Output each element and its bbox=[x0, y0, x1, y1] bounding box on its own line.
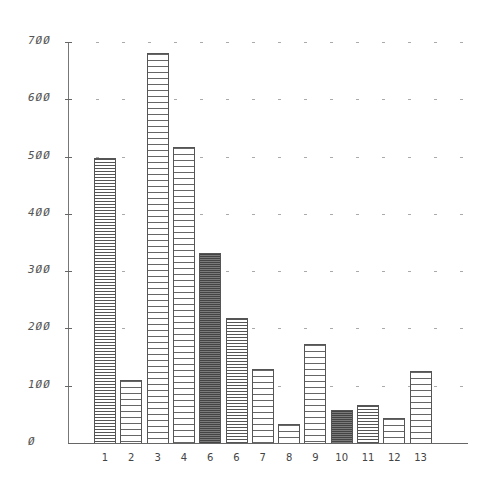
grid-dot bbox=[356, 386, 359, 387]
grid-dot bbox=[226, 157, 229, 158]
y-tick-mark bbox=[65, 328, 72, 329]
bar-3 bbox=[147, 53, 169, 443]
grid-dot bbox=[408, 214, 411, 215]
grid-dot bbox=[122, 271, 125, 272]
grid-dot bbox=[460, 386, 463, 387]
grid-dot bbox=[200, 157, 203, 158]
grid-dot bbox=[434, 386, 437, 387]
bar-chart: Ø1ØØ2ØØ3ØØ4ØØ5ØØ6ØØ7ØØ 12346678910111213 bbox=[0, 0, 497, 493]
grid-dot bbox=[304, 214, 307, 215]
y-tick-label: 2ØØ bbox=[28, 320, 51, 333]
y-tick-label: Ø bbox=[28, 435, 36, 448]
grid-dot bbox=[356, 271, 359, 272]
grid-dot bbox=[330, 271, 333, 272]
grid-dot bbox=[278, 214, 281, 215]
grid-dot bbox=[460, 42, 463, 43]
bar-5 bbox=[199, 253, 221, 443]
grid-dot bbox=[382, 157, 385, 158]
grid-dot bbox=[304, 271, 307, 272]
y-tick-mark bbox=[65, 386, 72, 387]
grid-dot bbox=[408, 157, 411, 158]
grid-dot bbox=[356, 214, 359, 215]
y-tick-mark bbox=[65, 271, 72, 272]
grid-dot bbox=[278, 99, 281, 100]
grid-dot bbox=[148, 42, 151, 43]
y-tick-label: 6ØØ bbox=[28, 91, 51, 104]
x-tick-label: 13 bbox=[411, 452, 431, 463]
grid-dot bbox=[278, 386, 281, 387]
grid-dot bbox=[304, 99, 307, 100]
grid-dot bbox=[304, 328, 307, 329]
grid-dot bbox=[382, 271, 385, 272]
bar-13 bbox=[410, 371, 432, 443]
grid-dot bbox=[278, 157, 281, 158]
bar-6 bbox=[226, 318, 248, 443]
grid-dot bbox=[200, 214, 203, 215]
bar-9 bbox=[304, 344, 326, 443]
grid-dot bbox=[122, 157, 125, 158]
grid-dot bbox=[460, 99, 463, 100]
bar-4 bbox=[173, 147, 195, 443]
grid-dot bbox=[122, 42, 125, 43]
x-tick-label: 6 bbox=[227, 452, 247, 463]
grid-dot bbox=[434, 271, 437, 272]
x-tick-label: 8 bbox=[279, 452, 299, 463]
y-tick-label: 4ØØ bbox=[28, 206, 51, 219]
grid-dot bbox=[278, 328, 281, 329]
bar-1 bbox=[94, 158, 116, 443]
x-tick-label: 4 bbox=[174, 452, 194, 463]
grid-dot bbox=[330, 386, 333, 387]
grid-dot bbox=[434, 214, 437, 215]
grid-dot bbox=[226, 99, 229, 100]
grid-dot bbox=[252, 42, 255, 43]
x-tick-label: 9 bbox=[305, 452, 325, 463]
grid-dot bbox=[200, 42, 203, 43]
bar-7 bbox=[252, 369, 274, 443]
grid-dot bbox=[356, 157, 359, 158]
grid-dot bbox=[122, 214, 125, 215]
x-tick-label: 2 bbox=[121, 452, 141, 463]
grid-dot bbox=[382, 328, 385, 329]
grid-dot bbox=[408, 271, 411, 272]
grid-dot bbox=[304, 157, 307, 158]
grid-dot bbox=[434, 99, 437, 100]
grid-dot bbox=[408, 328, 411, 329]
bar-2 bbox=[120, 380, 142, 443]
grid-dot bbox=[252, 214, 255, 215]
grid-dot bbox=[382, 42, 385, 43]
grid-dot bbox=[382, 99, 385, 100]
grid-dot bbox=[122, 328, 125, 329]
grid-dot bbox=[278, 42, 281, 43]
grid-dot bbox=[96, 42, 99, 43]
x-tick-label: 7 bbox=[253, 452, 273, 463]
x-tick-label: 12 bbox=[384, 452, 404, 463]
grid-dot bbox=[408, 99, 411, 100]
grid-dot bbox=[226, 271, 229, 272]
y-tick-label: 5ØØ bbox=[28, 149, 51, 162]
y-tick-label: 1ØØ bbox=[28, 378, 51, 391]
y-axis bbox=[68, 42, 69, 443]
grid-dot bbox=[252, 99, 255, 100]
bar-8 bbox=[278, 424, 300, 443]
x-tick-label: 3 bbox=[148, 452, 168, 463]
y-tick-label: 7ØØ bbox=[28, 34, 51, 47]
grid-dot bbox=[434, 328, 437, 329]
grid-dot bbox=[434, 157, 437, 158]
grid-dot bbox=[174, 42, 177, 43]
grid-dot bbox=[304, 42, 307, 43]
y-tick-mark bbox=[65, 42, 72, 43]
grid-dot bbox=[460, 157, 463, 158]
grid-dot bbox=[226, 214, 229, 215]
grid-dot bbox=[96, 99, 99, 100]
y-tick-mark bbox=[65, 214, 72, 215]
grid-dot bbox=[460, 271, 463, 272]
grid-dot bbox=[460, 214, 463, 215]
grid-dot bbox=[226, 42, 229, 43]
grid-dot bbox=[330, 214, 333, 215]
grid-dot bbox=[434, 42, 437, 43]
grid-dot bbox=[252, 328, 255, 329]
grid-dot bbox=[330, 42, 333, 43]
grid-dot bbox=[330, 328, 333, 329]
y-tick-label: 3ØØ bbox=[28, 263, 51, 276]
y-tick-mark bbox=[65, 157, 72, 158]
